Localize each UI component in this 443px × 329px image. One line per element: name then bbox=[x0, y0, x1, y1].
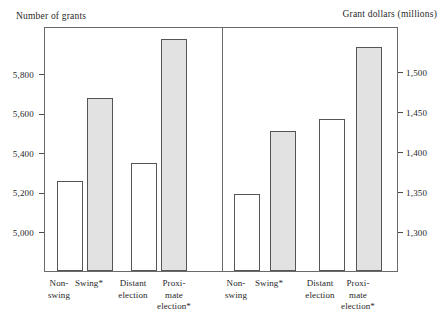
bar-left-non-swing bbox=[57, 181, 83, 271]
xlabel-right-swing: Swing* bbox=[250, 278, 288, 290]
right-tick-1350 bbox=[398, 192, 403, 193]
left-tick-label-5800: 5,800 bbox=[13, 70, 34, 80]
right-tick-1500 bbox=[398, 72, 403, 73]
xlabel-left-swing: Swing* bbox=[70, 278, 108, 290]
right-axis-caption: Grant dollars (millions) bbox=[342, 9, 437, 19]
bar-right-non-swing bbox=[234, 194, 260, 271]
right-tick-label-1350: 1,350 bbox=[406, 188, 427, 198]
left-axis-caption: Number of grants bbox=[16, 11, 86, 21]
bar-right-swing bbox=[270, 131, 296, 271]
right-tick-label-1500: 1,500 bbox=[406, 68, 427, 78]
bar-right-proximate-election bbox=[356, 47, 382, 271]
bar-left-proximate-election bbox=[161, 39, 187, 271]
xlabel-right-proximate-election: Proxi- mate election* bbox=[337, 278, 379, 313]
plot-area bbox=[44, 27, 398, 272]
right-tick-label-1450: 1,450 bbox=[406, 108, 427, 118]
left-tick-label-5400: 5,400 bbox=[13, 149, 34, 159]
bar-left-swing bbox=[87, 98, 113, 271]
right-tick-1300 bbox=[398, 232, 403, 233]
left-tick-label-5600: 5,600 bbox=[13, 109, 34, 119]
right-tick-label-1300: 1,300 bbox=[406, 228, 427, 238]
right-tick-1450 bbox=[398, 112, 403, 113]
bar-chart-figure: Number of grants Grant dollars (millions… bbox=[0, 0, 443, 329]
left-tick-label-5000: 5,000 bbox=[13, 228, 34, 238]
bar-left-distant-election bbox=[131, 163, 157, 271]
xlabel-left-distant-election: Distant election bbox=[112, 278, 154, 301]
xlabel-right-distant-election: Distant election bbox=[299, 278, 341, 301]
xlabel-left-proximate-election: Proxi- mate election* bbox=[153, 278, 195, 313]
left-tick-label-5200: 5,200 bbox=[13, 188, 34, 198]
right-tick-1400 bbox=[398, 152, 403, 153]
right-tick-label-1400: 1,400 bbox=[406, 148, 427, 158]
panel-divider bbox=[222, 28, 223, 271]
bar-right-distant-election bbox=[319, 119, 345, 271]
